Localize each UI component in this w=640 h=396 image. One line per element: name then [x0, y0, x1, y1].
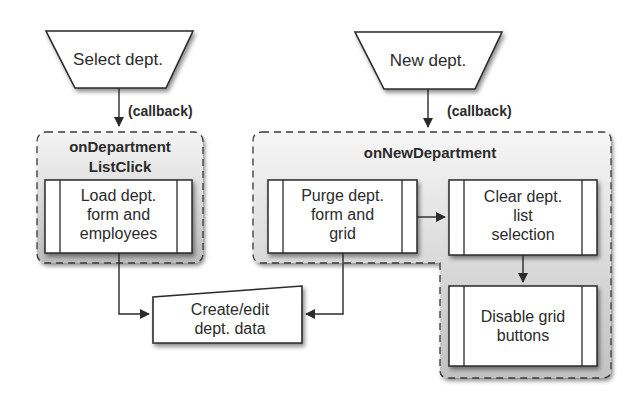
disable-grid-text: Disable grid buttons — [464, 307, 582, 345]
disable-grid-line2: buttons — [464, 326, 582, 345]
load-dept-line3: employees — [60, 224, 177, 243]
create-edit-line2: dept. data — [160, 319, 300, 338]
select-dept-label: Select dept. — [62, 50, 174, 69]
new-dept-label: New dept. — [372, 51, 484, 70]
group-left-title-line2: ListClick — [37, 157, 203, 176]
group-left-title-line1: onDepartment — [37, 137, 203, 156]
disable-grid-line1: Disable grid — [464, 307, 582, 326]
purge-dept-line2: form and — [283, 205, 402, 224]
create-edit-line1: Create/edit — [160, 300, 300, 319]
clear-dept-text: Clear dept. list selection — [464, 187, 582, 244]
callback-label-right: (callback) — [447, 102, 533, 121]
clear-dept-line1: Clear dept. — [464, 187, 582, 206]
clear-dept-line2: list — [464, 206, 582, 225]
create-edit-text: Create/edit dept. data — [160, 300, 300, 338]
purge-dept-text: Purge dept. form and grid — [283, 186, 402, 243]
load-dept-line2: form and — [60, 205, 177, 224]
clear-dept-line3: selection — [464, 225, 582, 244]
purge-dept-line3: grid — [283, 224, 402, 243]
purge-dept-line1: Purge dept. — [283, 186, 402, 205]
callback-label-left: (callback) — [128, 102, 214, 121]
group-right-title: onNewDepartment — [340, 143, 520, 162]
load-dept-text: Load dept. form and employees — [60, 186, 177, 243]
load-dept-line1: Load dept. — [60, 186, 177, 205]
